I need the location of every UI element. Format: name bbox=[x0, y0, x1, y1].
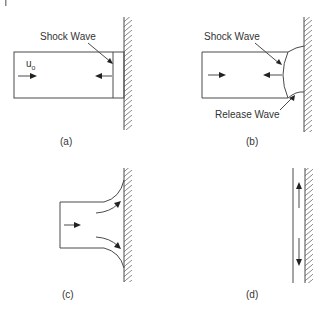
flow-arrow-top bbox=[96, 204, 118, 213]
arrow-right-icon bbox=[74, 222, 81, 228]
caption-c: (c) bbox=[62, 289, 74, 300]
flow-arrow-bottom bbox=[96, 237, 118, 246]
leader-arrow-icon bbox=[276, 59, 282, 65]
arrow-left-icon bbox=[263, 72, 270, 78]
shock-front-b bbox=[283, 52, 288, 98]
corner-mark bbox=[5, 0, 7, 6]
release-wave-top bbox=[288, 46, 304, 52]
arrow-up-icon bbox=[296, 182, 302, 189]
leader-line-b-shock bbox=[255, 43, 280, 64]
arrow-right-icon bbox=[219, 72, 226, 78]
leader-arrow-icon bbox=[107, 58, 113, 64]
release-wave-bottom bbox=[288, 92, 304, 98]
caption-b: (b) bbox=[246, 136, 258, 147]
impact-diagram: uo Shock Wave (a) Shock Wave Release Wav… bbox=[0, 0, 327, 312]
panel-b: Shock Wave Release Wave (b) bbox=[202, 17, 312, 147]
panel-a: uo Shock Wave (a) bbox=[14, 17, 132, 147]
flare-top bbox=[104, 180, 124, 202]
wall-hatch-a bbox=[124, 17, 132, 130]
panel-d: (d) bbox=[246, 168, 313, 300]
wall-hatch-c bbox=[124, 168, 132, 282]
arrow-right-icon bbox=[30, 73, 37, 79]
shock-wave-label-a: Shock Wave bbox=[40, 31, 96, 42]
arrow-down-icon bbox=[296, 259, 302, 266]
caption-a: (a) bbox=[60, 136, 72, 147]
flare-bottom bbox=[104, 248, 124, 268]
wall-hatch-b bbox=[304, 17, 312, 132]
release-wave-label: Release Wave bbox=[215, 109, 280, 120]
panel-c: (c) bbox=[60, 168, 132, 300]
wall-hatch-d bbox=[305, 168, 313, 283]
shock-wave-label-b: Shock Wave bbox=[204, 31, 260, 42]
caption-d: (d) bbox=[246, 289, 258, 300]
leader-line-a bbox=[88, 43, 112, 63]
velocity-label: uo bbox=[26, 58, 36, 71]
arrow-left-icon bbox=[95, 73, 102, 79]
